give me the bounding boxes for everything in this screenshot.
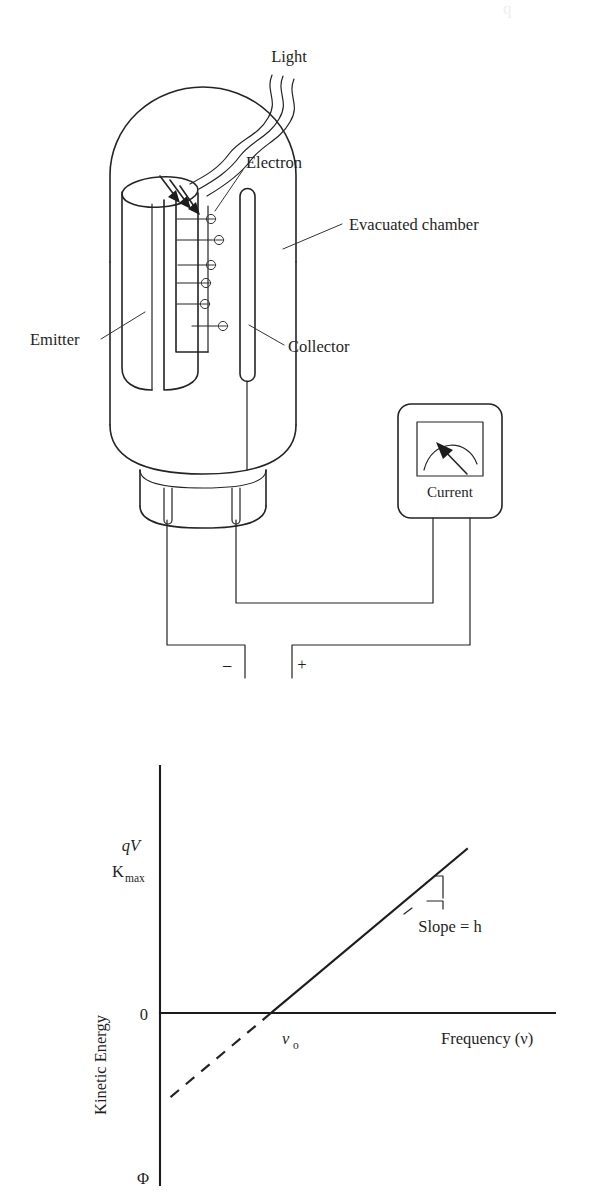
slope-run-bracket (427, 901, 443, 909)
electron-mark (178, 260, 216, 269)
chart-y-label-kmax: K max (112, 862, 145, 884)
electron-mark (177, 299, 210, 308)
light-rays (190, 75, 294, 196)
tube-pins (164, 488, 240, 524)
label-collector: Collector (288, 337, 350, 356)
chart-y-axis-title: Kinetic Energy (91, 1014, 110, 1115)
wire-emitter-to-negative (167, 520, 245, 678)
leader-evacuated-chamber (283, 224, 342, 249)
leader-emitter (101, 312, 145, 339)
slope-rise-bracket (436, 876, 443, 898)
tube-base (140, 470, 266, 528)
leader-lines (101, 170, 342, 345)
terminal-positive-label: + (297, 655, 306, 674)
battery-terminals: – + (222, 655, 307, 674)
ammeter-body (398, 404, 502, 518)
electron-mark (177, 235, 224, 244)
chart-series-dashed (167, 1013, 271, 1100)
chart-slope-annotation-text: Slope = h (418, 917, 482, 936)
svg-text:q: q (503, 0, 512, 18)
scan-artifact: q (503, 0, 512, 18)
kinetic-energy-vs-frequency-chart: qV K max 0 Kinetic Energy Φ ν o Frequenc… (91, 766, 555, 1188)
ammeter: Current (398, 404, 502, 518)
slope-marker (404, 876, 443, 914)
wire-ammeter-to-positive (292, 518, 470, 678)
chart-y-label-k: K (112, 862, 124, 881)
chart-work-function-label: Φ (137, 1169, 149, 1188)
chart-y-tick-zero: 0 (140, 1005, 148, 1024)
chart-slope-annotation: Slope = h (418, 917, 482, 936)
label-emitter: Emitter (30, 330, 80, 349)
figure-canvas: q (0, 0, 601, 1192)
electron-trajectories (177, 214, 228, 330)
evacuated-chamber-envelope (110, 87, 296, 474)
label-light: Light (271, 47, 307, 66)
circuit-wiring (167, 518, 470, 678)
apparatus-diagram: Light Electron Evacuated chamber Emitter… (30, 47, 502, 678)
chart-y-label-max-subscript: max (125, 872, 145, 884)
slope-tick-left (404, 908, 412, 914)
label-electron: Electron (246, 153, 302, 172)
chart-threshold-frequency-label: ν o (282, 1029, 299, 1051)
terminal-negative-label: – (222, 655, 232, 674)
chart-y-label-qv: qV (122, 836, 142, 855)
wire-collector-to-ammeter (236, 518, 433, 603)
label-evacuated-chamber: Evacuated chamber (349, 215, 479, 234)
collector-electrode (240, 189, 255, 471)
label-current: Current (427, 484, 474, 500)
chart-nu-subscript: o (293, 1039, 299, 1051)
chart-nu-symbol: ν (282, 1029, 290, 1048)
photoelectric-effect-figure: q (0, 0, 601, 1192)
electron-mark (177, 278, 211, 287)
chart-x-axis-title: Frequency (ν) (441, 1029, 533, 1048)
electron-mark (177, 214, 216, 223)
